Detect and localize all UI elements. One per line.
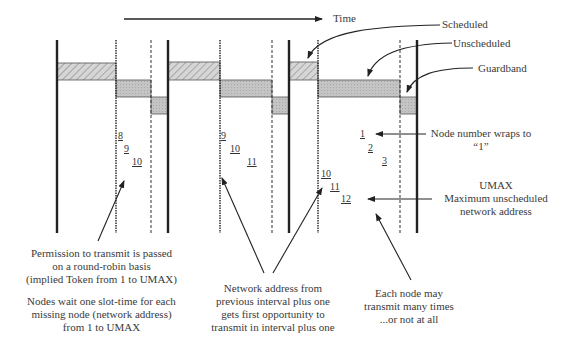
guardband-bar: [400, 97, 417, 114]
each-node-note: Each node may transmit many times ...or …: [359, 287, 459, 326]
each-line3: ...or not at all: [359, 313, 459, 326]
address-note: Network address from previous interval p…: [203, 282, 343, 334]
umax-line2: Maximum unscheduled: [438, 192, 554, 205]
umax-line1: UMAX: [438, 179, 554, 192]
node-number: 9: [124, 143, 129, 154]
scheduled-label: Scheduled: [442, 18, 488, 31]
wait-line3: from 1 to UMAX: [24, 321, 179, 334]
node-number: 11: [330, 181, 340, 192]
perm-line2: on a round-robin basis: [24, 260, 179, 273]
each-line2: transmit many times: [359, 300, 459, 313]
guardband-bar: [272, 97, 289, 114]
node-number: 2: [368, 142, 373, 153]
guardband-bar: [151, 97, 168, 114]
address-arrow-left: [222, 178, 264, 273]
unscheduled-bar: [318, 80, 400, 97]
addr-line4: transmit in interval plus one: [203, 321, 343, 334]
wait-line2: missing node (network address): [24, 308, 179, 321]
addr-line3: gets first opportunity to: [203, 308, 343, 321]
addr-line1: Network address from: [203, 282, 343, 295]
permission-arrow: [98, 181, 124, 241]
node-number: 3: [382, 155, 387, 166]
perm-line3: (implied Token from 1 to UMAX): [24, 273, 179, 286]
wrap-line2: “1”: [426, 140, 536, 153]
node-number: 8: [118, 130, 123, 141]
node-number: 9: [221, 130, 226, 141]
wait-line1: Nodes wait one slot-time for each: [24, 295, 179, 308]
scheduled-pointer-arrow: [308, 25, 440, 58]
addr-line2: previous interval plus one: [203, 295, 343, 308]
scheduled-bar: [168, 62, 220, 80]
permission-note: Permission to transmit is passed on a ro…: [24, 247, 179, 286]
scheduled-bar: [289, 62, 318, 80]
time-label: Time: [333, 12, 356, 25]
wait-note: Nodes wait one slot-time for each missin…: [24, 295, 179, 334]
unscheduled-bar: [116, 80, 151, 97]
unscheduled-label: Unscheduled: [453, 37, 510, 50]
each-line1: Each node may: [359, 287, 459, 300]
address-arrow-right: [273, 188, 322, 273]
guardband-label: Guardband: [478, 62, 527, 75]
unscheduled-bar: [220, 80, 272, 97]
node-number: 10: [321, 168, 331, 179]
perm-line1: Permission to transmit is passed: [24, 247, 179, 260]
node-number: 10: [132, 156, 142, 167]
node-number: 11: [247, 156, 257, 167]
wrap-note: Node number wraps to “1”: [426, 127, 536, 153]
node-number: 10: [230, 143, 240, 154]
umax-note: UMAX Maximum unscheduled network address: [438, 179, 554, 218]
umax-line3: network address: [438, 205, 554, 218]
wrap-line1: Node number wraps to: [426, 127, 536, 140]
node-number: 1: [360, 128, 365, 139]
node-number: 12: [341, 193, 351, 204]
scheduled-bar: [57, 63, 116, 80]
each-node-arrow: [376, 214, 411, 280]
